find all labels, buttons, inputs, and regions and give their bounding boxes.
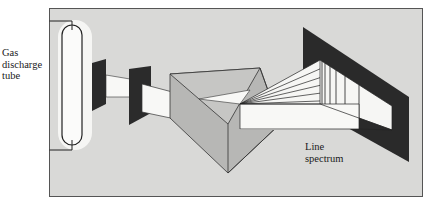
label-line: discharge xyxy=(2,59,42,71)
light-beam-1 xyxy=(106,75,130,97)
label-line: Line xyxy=(305,141,344,153)
diagram: Gas discharge tube Line spectrum xyxy=(0,0,440,210)
slit-1 xyxy=(92,59,106,111)
gas-discharge-tube-label: Gas discharge tube xyxy=(2,47,42,82)
label-line: Gas xyxy=(2,47,42,59)
spectroscope-diagram xyxy=(0,0,440,210)
label-line: spectrum xyxy=(305,153,344,165)
label-line: tube xyxy=(2,70,42,82)
line-spectrum-label: Line spectrum xyxy=(305,141,344,164)
